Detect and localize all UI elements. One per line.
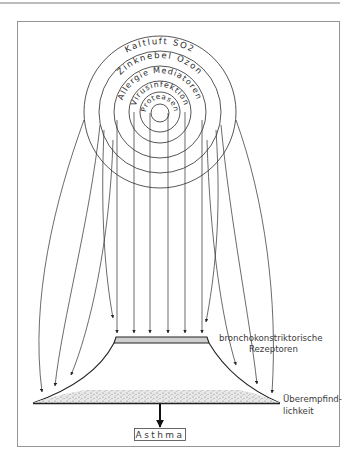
receptor-label-line2: Rezeptoren: [249, 344, 298, 354]
hypersensitivity-base: [33, 390, 280, 403]
figure-frame: [18, 22, 340, 447]
receptor-label-line1: bronchokonstriktorische: [219, 333, 323, 343]
asthma-pathogenesis-diagram: Kaltluft SO2 Zinknebel Ozon Allergie Med…: [0, 0, 354, 459]
ring-label-proteasen: Proteasen: [139, 92, 181, 113]
receptor-arrows: [103, 112, 218, 333]
outcome-label: Asthma: [136, 430, 185, 440]
receptor-bar: [114, 337, 209, 343]
ring-core: [151, 104, 169, 122]
svg-text:Proteasen: Proteasen: [139, 92, 181, 113]
hypersensitivity-label-line2: lichkeit: [283, 406, 314, 416]
hypersensitivity-label-line1: Überempfind-: [283, 394, 342, 404]
